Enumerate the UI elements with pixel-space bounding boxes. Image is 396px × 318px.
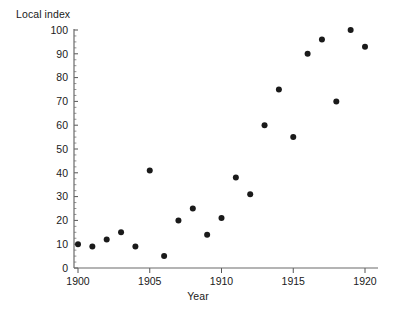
svg-text:60: 60 xyxy=(56,119,68,131)
data-point xyxy=(118,229,124,235)
x-axis-title: Year xyxy=(0,290,396,302)
data-point xyxy=(247,191,253,197)
svg-text:70: 70 xyxy=(56,95,68,107)
data-point xyxy=(305,51,311,57)
data-point xyxy=(348,27,354,33)
data-point xyxy=(175,217,181,223)
svg-text:1905: 1905 xyxy=(138,275,162,287)
data-point xyxy=(262,122,268,128)
data-point xyxy=(89,244,95,250)
svg-text:50: 50 xyxy=(56,143,68,155)
data-point xyxy=(290,134,296,140)
plot-area: 0102030405060708090100 19001905191019151… xyxy=(0,0,396,318)
svg-text:1915: 1915 xyxy=(282,275,306,287)
data-point xyxy=(362,44,368,50)
data-point xyxy=(132,244,138,250)
scatter-chart: Local index 0102030405060708090100 19001… xyxy=(0,0,396,318)
data-point xyxy=(147,167,153,173)
svg-text:0: 0 xyxy=(62,262,68,274)
svg-text:100: 100 xyxy=(50,24,68,36)
svg-text:1910: 1910 xyxy=(210,275,234,287)
data-point xyxy=(319,37,325,43)
data-point xyxy=(219,215,225,221)
data-points xyxy=(75,27,368,259)
svg-text:10: 10 xyxy=(56,238,68,250)
data-point xyxy=(204,232,210,238)
x-axis-ticks: 19001905191019151920 xyxy=(66,268,377,287)
data-point xyxy=(190,206,196,212)
svg-text:1920: 1920 xyxy=(353,275,377,287)
data-point xyxy=(276,87,282,93)
data-point xyxy=(233,175,239,181)
svg-text:40: 40 xyxy=(56,167,68,179)
svg-text:80: 80 xyxy=(56,71,68,83)
data-point xyxy=(161,253,167,259)
svg-text:1900: 1900 xyxy=(66,275,90,287)
svg-text:20: 20 xyxy=(56,214,68,226)
svg-text:90: 90 xyxy=(56,48,68,60)
svg-text:30: 30 xyxy=(56,190,68,202)
data-point xyxy=(104,236,110,242)
data-point xyxy=(75,241,81,247)
data-point xyxy=(333,98,339,104)
